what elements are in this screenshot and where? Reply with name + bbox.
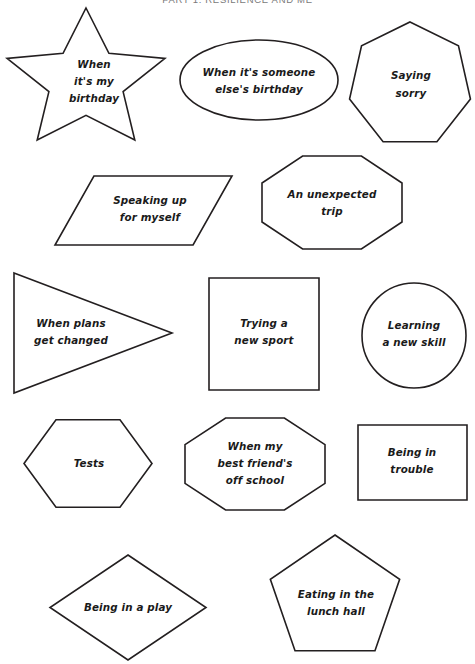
shape-label-tests: Tests (74, 457, 105, 469)
triangle-right-outline (14, 273, 172, 393)
shape-label-line: it's my (74, 75, 115, 87)
shape-label-line: When (77, 58, 111, 70)
shape-card-learning-a-new-skill[interactable]: Learninga new skill (362, 283, 466, 388)
shape-label-line: When plans (36, 317, 105, 329)
shape-card-saying-sorry[interactable]: Sayingsorry (350, 22, 471, 142)
shape-card-when-its-my-birthday[interactable]: Whenit's mybirthday (7, 8, 165, 140)
shape-label-line: best friend's (218, 457, 293, 469)
shape-label-line: lunch hall (307, 605, 365, 617)
shape-card-trying-a-new-sport[interactable]: Trying anew sport (209, 278, 319, 390)
shape-card-tests[interactable]: Tests (24, 420, 152, 507)
shape-card-being-in-trouble[interactable]: Being introuble (358, 425, 467, 500)
shape-label-line: When it's someone (203, 66, 316, 78)
shape-label-being-in-a-play: Being in a play (84, 601, 173, 613)
shape-label-line: trip (321, 205, 343, 217)
shape-label-line: else's birthday (215, 83, 304, 95)
shape-card-speaking-up-for-myself[interactable]: Speaking upfor myself (55, 176, 232, 245)
shape-label-line: Tests (74, 457, 105, 469)
shape-label-line: Speaking up (113, 194, 187, 206)
shape-card-eating-in-the-lunch-hall[interactable]: Eating in thelunch hall (270, 535, 399, 651)
shape-label-line: new sport (234, 334, 294, 346)
shape-label-when-my-best-friends-off-school: When mybest friend'soff school (218, 440, 293, 486)
shape-label-line: trouble (390, 463, 433, 475)
shape-label-line: birthday (69, 92, 120, 104)
shape-label-line: sorry (396, 87, 428, 99)
shape-label-line: a new skill (382, 336, 445, 348)
shape-layer: Whenit's mybirthdayWhen it's someoneelse… (0, 0, 475, 664)
shape-label-line: get changed (34, 334, 108, 346)
shape-label-line: When my (227, 440, 283, 452)
shape-card-an-unexpected-trip[interactable]: An unexpectedtrip (262, 156, 402, 249)
octagon-outline (262, 156, 402, 249)
shape-label-line: Being in a play (84, 601, 173, 613)
shape-label-line: Eating in the (298, 588, 374, 600)
shape-card-being-in-a-play[interactable]: Being in a play (50, 555, 206, 660)
ellipse-outline (180, 40, 338, 120)
shape-label-line: Being in (388, 446, 437, 458)
shape-card-when-my-best-friends-off-school[interactable]: When mybest friend'soff school (185, 418, 325, 510)
shape-label-line: Trying a (240, 317, 288, 329)
shape-label-line: Saying (391, 69, 431, 81)
heptagon-outline (350, 22, 471, 142)
shape-label-line: Learning (388, 319, 441, 331)
shape-label-line: An unexpected (287, 188, 377, 200)
shape-card-when-its-someone-elses-birthday[interactable]: When it's someoneelse's birthday (180, 40, 338, 120)
shape-label-line: for myself (120, 211, 182, 223)
shape-card-when-plans-get-changed[interactable]: When plansget changed (14, 273, 172, 393)
worksheet-page: PART 1: RESILIENCE AND ME Whenit's mybir… (0, 0, 475, 664)
shape-label-line: off school (226, 474, 285, 486)
